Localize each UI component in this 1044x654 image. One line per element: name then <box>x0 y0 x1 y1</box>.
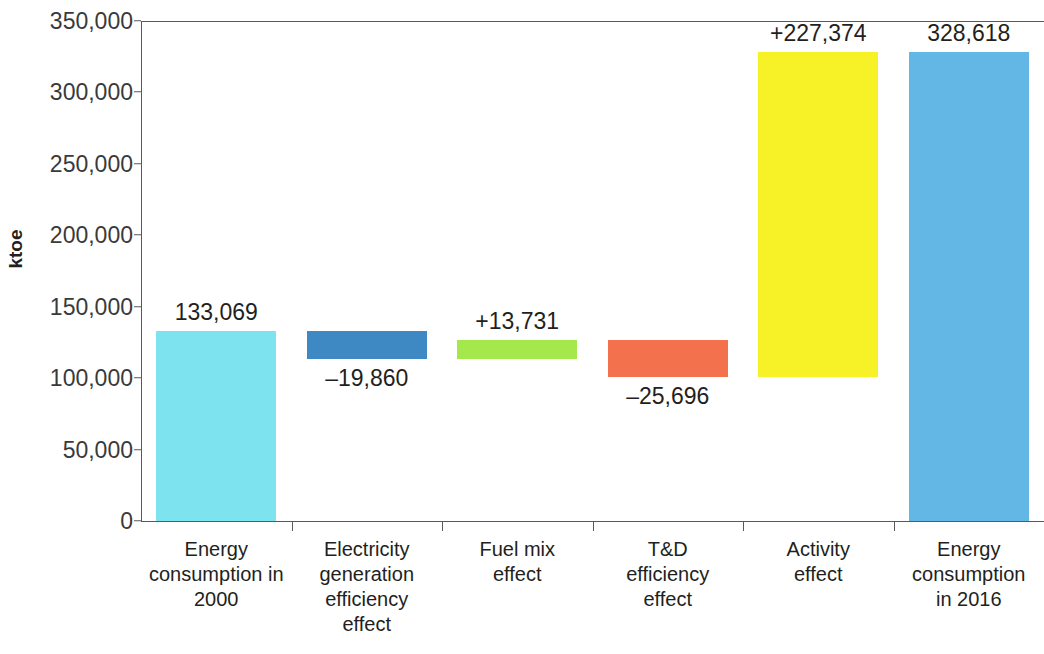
x-axis-category-label-line: effect <box>435 562 600 587</box>
x-axis-category-label-line: consumption in <box>134 562 299 587</box>
y-axis-tick-label: 100,000 <box>13 365 133 392</box>
x-axis-category-label-line: 2000 <box>134 587 299 612</box>
x-axis-category-label: Activityeffect <box>736 537 901 587</box>
y-axis-tick-label: 150,000 <box>13 293 133 320</box>
x-axis-category-label-line: Energy <box>134 537 299 562</box>
y-axis-tick-mark <box>134 92 141 93</box>
x-axis-category-label-line: generation <box>285 562 450 587</box>
x-axis-category-label-line: in 2016 <box>887 587 1044 612</box>
category-divider-tick <box>593 521 594 531</box>
category-divider-tick <box>442 521 443 531</box>
category-divider-tick <box>292 521 293 531</box>
x-axis-category-label-line: Energy <box>887 537 1044 562</box>
x-axis-category-label-line: efficiency <box>285 587 450 612</box>
y-axis-line <box>141 21 142 521</box>
bar-value-label: 133,069 <box>175 299 258 326</box>
x-axis-category-label: Energyconsumptionin 2016 <box>887 537 1044 612</box>
x-axis-category-label-line: Fuel mix <box>435 537 600 562</box>
x-axis-category-label-line: effect <box>586 587 751 612</box>
bar-value-label: +13,731 <box>475 308 559 335</box>
y-axis-tick-label: 0 <box>13 508 133 535</box>
y-axis-tick-mark <box>134 306 141 307</box>
plot-top-border <box>141 21 1044 22</box>
x-axis-category-label-line: effect <box>285 612 450 637</box>
y-axis-tick-mark <box>134 449 141 450</box>
y-axis-tick-label: 200,000 <box>13 222 133 249</box>
x-axis-category-label-line: consumption <box>887 562 1044 587</box>
bar-total <box>156 331 276 521</box>
category-divider-tick <box>894 521 895 531</box>
y-axis-tick-mark <box>134 235 141 236</box>
bar-decrease <box>307 331 427 359</box>
y-axis-tick-label: 350,000 <box>13 8 133 35</box>
category-divider-tick <box>743 521 744 531</box>
x-axis-category-label: Electricitygenerationefficiencyeffect <box>285 537 450 637</box>
bar-value-label: 328,618 <box>927 20 1010 47</box>
x-axis-category-label: T&Defficiencyeffect <box>586 537 751 612</box>
bar-increase <box>457 340 577 360</box>
bar-value-label: +227,374 <box>770 20 867 47</box>
x-axis-category-label: Energyconsumption in2000 <box>134 537 299 612</box>
bar-increase <box>758 52 878 377</box>
y-axis-tick-label: 50,000 <box>13 436 133 463</box>
x-axis-category-label: Fuel mixeffect <box>435 537 600 587</box>
waterfall-chart: ktoe 050,000100,000150,000200,000250,000… <box>0 0 1044 654</box>
y-axis-tick-mark <box>134 163 141 164</box>
y-axis-tick-mark <box>134 520 141 521</box>
x-axis-category-label-line: efficiency <box>586 562 751 587</box>
y-axis-tick-mark <box>134 20 141 21</box>
x-axis-category-label-line: Electricity <box>285 537 450 562</box>
x-axis-category-label-line: Activity <box>736 537 901 562</box>
y-axis-tick-mark <box>134 377 141 378</box>
x-axis-category-label-line: effect <box>736 562 901 587</box>
bar-value-label: –25,696 <box>626 383 709 410</box>
bar-value-label: –19,860 <box>325 365 408 392</box>
y-axis-tick-label: 250,000 <box>13 150 133 177</box>
y-axis-tick-label: 300,000 <box>13 79 133 106</box>
x-axis-category-label-line: T&D <box>586 537 751 562</box>
bar-decrease <box>608 340 728 377</box>
bar-total <box>909 52 1029 521</box>
